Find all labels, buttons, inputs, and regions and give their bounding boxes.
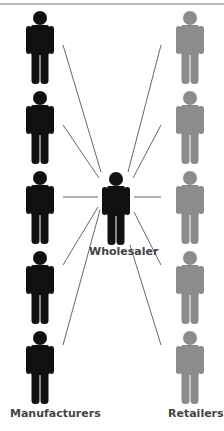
retailers-label: Retailers [168,407,224,420]
manufacturers-label: Manufacturers [10,407,101,420]
retailer-icon-1 [176,11,204,84]
wholesaler-label: Wholesaler [89,245,158,258]
manufacturer-icon-4 [26,251,54,324]
manufacturer-icon-2 [26,91,54,164]
retailer-icon-4 [176,251,204,324]
wholesaler-node [102,172,130,245]
distribution-diagram: Wholesaler Manufacturers Retailers [0,0,224,431]
retailer-icon-3 [176,171,204,244]
retailer-icon-2 [176,91,204,164]
retailers-column [176,11,204,404]
manufacturer-icon-1 [26,11,54,84]
manufacturers-column [26,11,54,404]
diagram-canvas [0,0,224,431]
retailer-icon-5 [176,331,204,404]
wholesaler-icon [102,172,130,245]
manufacturer-icon-5 [26,331,54,404]
manufacturer-icon-3 [26,171,54,244]
